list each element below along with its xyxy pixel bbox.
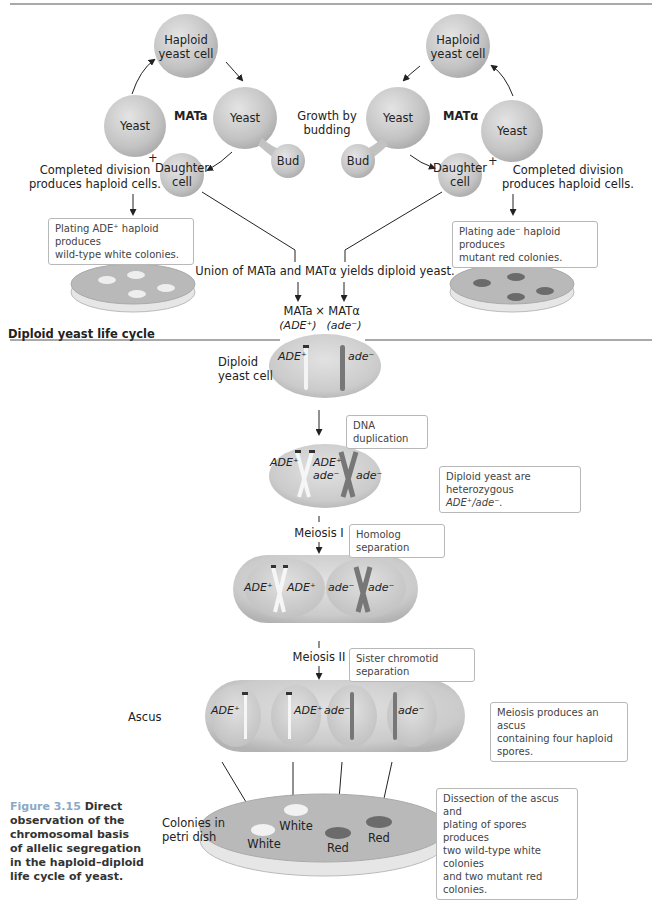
svg-text:+: + xyxy=(488,154,498,168)
svg-text:ADE⁺: ADE⁺ xyxy=(243,581,273,594)
diploid-cell: ADE⁺ ade⁻ xyxy=(269,334,381,398)
svg-text:produces haploid cells.: produces haploid cells. xyxy=(502,177,634,191)
heterozygous-note: Diploid yeast are heterozygous ADE⁺/ade⁻… xyxy=(439,466,581,513)
homolog-separation-note: Homolog separation xyxy=(349,524,445,558)
ascus: ADE⁺ ADE⁺ ade⁻ ade⁻ xyxy=(205,680,465,752)
svg-text:Colonies in: Colonies in xyxy=(162,816,225,830)
svg-text:ade⁻: ade⁻ xyxy=(313,469,339,482)
svg-text:Diploid: Diploid xyxy=(218,355,258,369)
svg-text:Growth by: Growth by xyxy=(297,109,357,123)
duplicated-diploid-cell: ADE⁺ ADE⁺ ade⁻ ade⁻ xyxy=(269,444,382,508)
svg-text:White: White xyxy=(247,837,280,851)
matalpha-cycle: Haploid yeast cell Yeast Bud Yeast Daugh… xyxy=(341,14,634,214)
svg-text:ade⁻: ade⁻ xyxy=(356,469,382,482)
svg-text:ADE⁺: ADE⁺ xyxy=(277,350,307,363)
svg-text:Haploid: Haploid xyxy=(436,33,480,47)
svg-text:yeast cell: yeast cell xyxy=(159,47,214,61)
plating-white-note: Plating ADE⁺ haploid produces wild-type … xyxy=(48,218,194,265)
svg-text:(ADE⁺): (ADE⁺) xyxy=(279,319,316,332)
svg-text:ade⁻: ade⁻ xyxy=(368,581,394,594)
svg-text:yeast cell: yeast cell xyxy=(218,369,273,383)
svg-text:ADE⁺: ADE⁺ xyxy=(210,704,240,717)
svg-text:cell: cell xyxy=(172,175,192,189)
svg-text:petri dish: petri dish xyxy=(162,830,216,844)
petri-dish-bottom: White White Red Red xyxy=(200,794,448,876)
svg-text:Meiosis II: Meiosis II xyxy=(293,650,346,664)
svg-text:(ade⁻): (ade⁻) xyxy=(327,319,362,332)
svg-text:MATα: MATα xyxy=(328,304,360,318)
svg-text:ADE⁺: ADE⁺ xyxy=(312,456,342,469)
petri-dish-red xyxy=(450,264,574,312)
figure-number: Figure 3.15 xyxy=(10,800,81,813)
svg-text:ADE⁺: ADE⁺ xyxy=(293,704,323,717)
petri-dish-white xyxy=(71,264,195,312)
svg-text:Bud: Bud xyxy=(277,154,299,168)
svg-text:ADE⁺: ADE⁺ xyxy=(269,456,299,469)
svg-text:Yeast: Yeast xyxy=(119,119,151,133)
svg-text:MATa: MATa xyxy=(283,304,312,318)
svg-text:ade⁻: ade⁻ xyxy=(324,704,350,717)
svg-text:Daughter: Daughter xyxy=(433,161,487,175)
svg-text:Union of MATa and MATα yields: Union of MATa and MATα yields diploid ye… xyxy=(195,264,454,278)
svg-text:ade⁻: ade⁻ xyxy=(348,350,374,363)
svg-text:produces haploid cells.: produces haploid cells. xyxy=(29,177,161,191)
dissection-note: Dissection of the ascus and plating of s… xyxy=(436,788,578,900)
svg-text:Daughter: Daughter xyxy=(155,161,209,175)
svg-text:ade⁻: ade⁻ xyxy=(398,704,424,717)
sister-chromatid-note: Sister chromotid separation xyxy=(349,648,475,682)
mata-cycle: Haploid yeast cell Yeast Yeast Bud Daugh… xyxy=(29,14,305,214)
svg-text:Meiosis I: Meiosis I xyxy=(294,526,343,540)
svg-text:budding: budding xyxy=(304,123,351,137)
svg-text:Ascus: Ascus xyxy=(128,710,161,724)
section-title: Diploid yeast life cycle xyxy=(8,327,155,341)
ascus-note: Meiosis produces an ascus containing fou… xyxy=(490,702,628,762)
plating-red-note: Plating ade⁻ haploid produces mutant red… xyxy=(452,221,598,268)
svg-text:Yeast: Yeast xyxy=(382,111,414,125)
svg-text:ade⁻: ade⁻ xyxy=(328,581,354,594)
meiosis-i-cell: ADE⁺ ADE⁺ ade⁻ ade⁻ xyxy=(233,555,418,623)
svg-text:MATα: MATα xyxy=(443,109,478,123)
svg-text:White: White xyxy=(279,819,312,833)
dna-duplication-note: DNA duplication xyxy=(346,415,428,449)
svg-text:Bud: Bud xyxy=(347,154,369,168)
svg-text:Red: Red xyxy=(368,831,390,845)
svg-text:MATa: MATa xyxy=(174,109,208,123)
svg-text:Red: Red xyxy=(327,841,349,855)
svg-text:ADE⁺: ADE⁺ xyxy=(286,581,316,594)
svg-text:Completed division: Completed division xyxy=(40,163,150,177)
svg-text:Haploid: Haploid xyxy=(164,33,208,47)
svg-text:cell: cell xyxy=(450,175,470,189)
svg-text:yeast cell: yeast cell xyxy=(431,47,486,61)
figure-caption: Figure 3.15 Direct observation of the ch… xyxy=(10,800,145,884)
svg-text:Yeast: Yeast xyxy=(229,111,261,125)
svg-text:×: × xyxy=(315,304,325,318)
svg-text:Yeast: Yeast xyxy=(496,124,528,138)
svg-text:Completed division: Completed division xyxy=(513,163,623,177)
